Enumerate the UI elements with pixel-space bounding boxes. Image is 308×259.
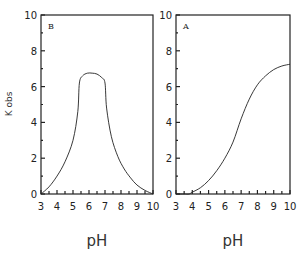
y-tick-label: 10 — [24, 10, 37, 21]
x-tick-label: 10 — [284, 201, 297, 212]
x-axis-label: pH — [223, 232, 244, 250]
y-tick-label: 2 — [166, 153, 172, 164]
y-tick-label: 6 — [31, 82, 37, 93]
y-tick-label: 2 — [31, 153, 37, 164]
x-tick-label: 7 — [238, 201, 244, 212]
y-tick-label: 0 — [166, 189, 172, 200]
y-tick-label: 8 — [31, 46, 37, 57]
x-tick-label: 3 — [38, 201, 44, 212]
x-tick-label: 5 — [205, 201, 211, 212]
y-tick-label: 4 — [31, 117, 37, 128]
y-tick-label: 4 — [166, 117, 172, 128]
x-tick-label: 6 — [222, 201, 228, 212]
x-tick-label: 6 — [86, 201, 92, 212]
x-tick-label: 8 — [254, 201, 260, 212]
x-tick-label: 4 — [189, 201, 195, 212]
x-tick-label: 7 — [102, 201, 108, 212]
x-tick-label: 8 — [118, 201, 124, 212]
y-tick-label: 0 — [31, 189, 37, 200]
panel-A: 3456789100246810ApH — [159, 10, 296, 250]
panel-label: B — [48, 22, 54, 31]
plot-frame — [176, 15, 290, 194]
chart-figure: 3456789100246810BpHK obs3456789100246810… — [0, 0, 308, 259]
plot-frame — [41, 15, 153, 194]
series-line-A — [176, 64, 290, 194]
series-line-B — [41, 73, 153, 194]
x-tick-label: 3 — [173, 201, 179, 212]
y-axis-label: K obs — [4, 91, 14, 116]
x-tick-label: 9 — [134, 201, 140, 212]
panel-label: A — [182, 22, 189, 31]
y-tick-label: 6 — [166, 82, 172, 93]
y-tick-label: 10 — [159, 10, 172, 21]
x-tick-label: 5 — [70, 201, 76, 212]
x-tick-label: 4 — [54, 201, 60, 212]
x-tick-label: 10 — [147, 201, 160, 212]
y-tick-label: 8 — [166, 46, 172, 57]
panel-B: 3456789100246810BpHK obs — [4, 10, 159, 250]
x-axis-label: pH — [87, 232, 108, 250]
x-tick-label: 9 — [271, 201, 277, 212]
